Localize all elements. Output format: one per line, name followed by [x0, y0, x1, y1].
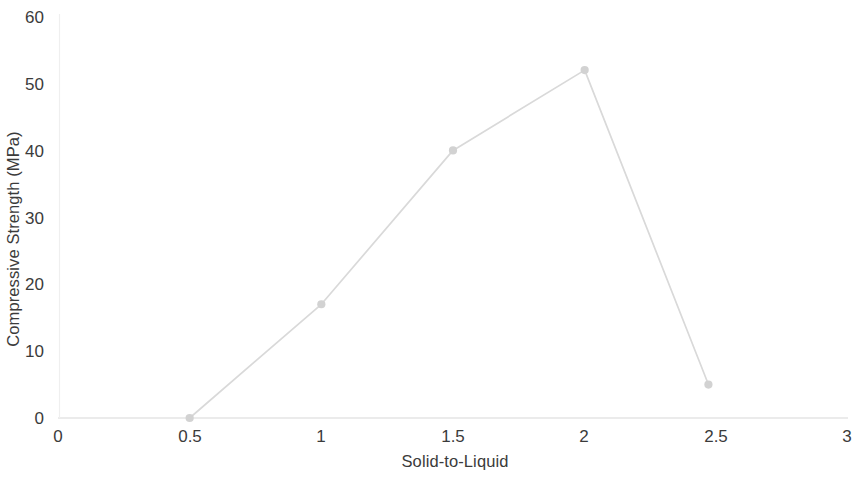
data-point — [581, 66, 589, 74]
x-axis-title: Solid-to-Liquid — [60, 452, 850, 471]
series-markers — [186, 66, 713, 422]
data-point — [317, 300, 325, 308]
x-tick-label: 1.5 — [423, 428, 483, 445]
plot-area — [0, 0, 853, 478]
x-tick-label: 0 — [28, 428, 88, 445]
data-point — [186, 414, 194, 422]
data-point — [704, 380, 712, 388]
x-tick-label: 3 — [817, 428, 853, 445]
chart-figure: 60 50 40 30 20 10 0 0 0.5 1 1.5 2 2.5 3 … — [0, 0, 853, 478]
axis-lines — [58, 14, 848, 418]
x-tick-label: 2.5 — [686, 428, 746, 445]
data-point — [449, 146, 457, 154]
x-tick-label: 2 — [554, 428, 614, 445]
x-tick-label: 0.5 — [160, 428, 220, 445]
x-tick-label: 1 — [291, 428, 351, 445]
data-series-line — [190, 70, 709, 418]
y-axis-title: Compressive Strength (MPa) — [0, 0, 26, 478]
series-polyline — [190, 70, 709, 418]
